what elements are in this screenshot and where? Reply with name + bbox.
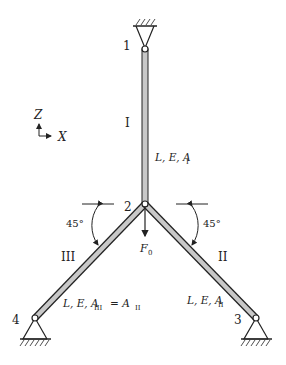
member-II-props: L, E, A II: [186, 294, 224, 309]
svg-text:II: II: [135, 304, 141, 312]
member-III-props: L, E, A III = A II: [62, 297, 141, 312]
support-node-1: [133, 19, 157, 48]
svg-text:0: 0: [148, 249, 152, 257]
support-node-4: [20, 315, 51, 346]
node-1-label: 1: [123, 39, 131, 53]
axes-indicator: [39, 124, 51, 136]
member-II-label: II: [218, 250, 228, 264]
member-I: [142, 49, 148, 204]
load-label: F 0: [139, 242, 152, 257]
svg-text:II: II: [218, 301, 224, 309]
truss-diagram: Z X 1 2 3 4 I II III L, E, A I L, E, A I…: [0, 0, 286, 365]
svg-text:F: F: [139, 242, 148, 255]
svg-text:I: I: [186, 158, 189, 166]
axis-z-label: Z: [33, 108, 43, 122]
member-III-label: III: [61, 250, 75, 264]
angle-left-label: 45°: [66, 218, 84, 229]
node-2-label: 2: [124, 200, 132, 214]
member-I-label: I: [125, 116, 130, 130]
svg-text:III: III: [94, 304, 103, 312]
node-4-label: 4: [12, 313, 20, 327]
member-I-props: L, E, A I: [154, 151, 191, 166]
node-3-label: 3: [234, 313, 242, 327]
pin-node-1: [142, 46, 148, 52]
axis-x-label: X: [57, 130, 67, 144]
svg-text:= A: = A: [110, 297, 130, 309]
angle-right-label: 45°: [203, 218, 221, 229]
support-node-3: [241, 315, 272, 346]
